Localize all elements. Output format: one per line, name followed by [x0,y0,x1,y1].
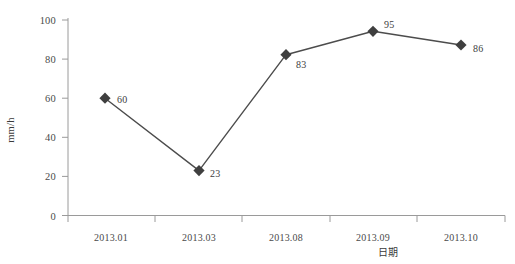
line-chart: 0 20 40 60 80 100 mm/h 2013.01 2013.03 2… [0,0,515,264]
data-point-marker [455,39,466,50]
data-point-label-4: 95 [384,19,394,30]
y-tick-label-80: 80 [34,54,56,65]
x-tick-label-2013-08: 2013.08 [269,232,303,243]
y-axis-ticks [62,20,68,216]
x-tick-label-2013-10: 2013.10 [444,232,478,243]
data-point-marker [193,165,204,176]
y-tick-label-60: 60 [34,93,56,104]
data-point-label-2: 23 [210,168,220,179]
data-point-marker [280,49,291,60]
x-tick-label-2013-09: 2013.09 [356,232,390,243]
data-point-label-3: 83 [296,59,306,70]
chart-canvas [0,0,515,264]
data-point-marker [99,93,110,104]
data-markers [99,26,466,177]
data-point-label-1: 60 [117,94,127,105]
y-tick-label-0: 0 [34,210,56,221]
y-tick-label-100: 100 [30,15,56,26]
y-tick-label-20: 20 [34,171,56,182]
data-point-marker [367,26,378,37]
data-point-label-5: 86 [473,43,483,54]
y-tick-label-40: 40 [34,132,56,143]
y-axis-title: mm/h [5,108,16,152]
x-tick-label-2013-03: 2013.03 [182,232,216,243]
x-axis-ticks [68,216,505,223]
x-axis-title: 日期 [378,244,398,259]
x-tick-label-2013-01: 2013.01 [94,232,128,243]
